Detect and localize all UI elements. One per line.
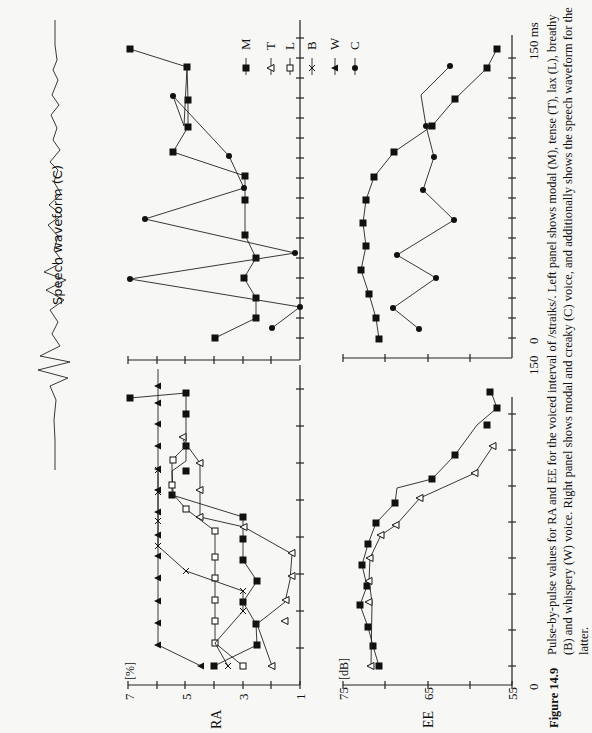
svg-text:B: B bbox=[304, 41, 319, 50]
ee-tick-65: 65 bbox=[421, 687, 436, 700]
right-time-tick-0: 0 bbox=[526, 338, 541, 345]
legend-item-b: B bbox=[304, 41, 319, 75]
figure-caption: Figure 14.9 bbox=[547, 668, 561, 728]
right-time-tick-150: 150 ms bbox=[526, 22, 541, 60]
legend-item-t: T bbox=[263, 42, 278, 75]
left-time-tick-150: 150 bbox=[526, 356, 541, 376]
ra-tick-7: 7 bbox=[122, 693, 137, 700]
ee-panel-left bbox=[343, 389, 516, 690]
left-time-tick-0: 0 bbox=[526, 684, 541, 691]
caption-text: Pulse-by-pulse values for RA and EE for … bbox=[545, 7, 591, 655]
ra-tick-1: 1 bbox=[293, 694, 308, 701]
ra-panel-right bbox=[127, 20, 305, 364]
ee-tick-55: 55 bbox=[505, 687, 520, 700]
svg-text:W: W bbox=[327, 37, 342, 50]
waveform-label: Speech waveform (C) bbox=[50, 165, 65, 305]
legend-item-l: L bbox=[282, 42, 297, 75]
speech-waveform: Speech waveform (C) bbox=[38, 20, 70, 470]
ra-unit: [%] bbox=[123, 662, 137, 680]
ra-tick-3: 3 bbox=[236, 694, 251, 701]
legend-item-m: M bbox=[238, 38, 253, 75]
caption-label: Figure 14.9 bbox=[547, 668, 561, 728]
ee-unit: [dB] bbox=[337, 658, 351, 680]
svg-text:Figure 14.9: Figure 14.9 bbox=[547, 668, 561, 728]
legend-item-w: W bbox=[327, 37, 342, 75]
caption-text-block: Pulse-by-pulse values for RA and EE for … bbox=[544, 5, 584, 655]
svg-text:C: C bbox=[347, 41, 362, 50]
svg-text:L: L bbox=[282, 42, 297, 50]
ee-axis-label: EE bbox=[421, 711, 436, 728]
svg-text:T: T bbox=[263, 42, 278, 50]
ee-panel-right bbox=[343, 35, 516, 362]
ra-tick-5: 5 bbox=[179, 694, 194, 701]
ra-panel-left bbox=[127, 365, 305, 689]
legend-item-c: C bbox=[347, 41, 362, 75]
ra-axis-label: RA bbox=[209, 709, 224, 729]
ee-tick-75: 75 bbox=[336, 687, 351, 700]
svg-text:M: M bbox=[238, 38, 253, 50]
